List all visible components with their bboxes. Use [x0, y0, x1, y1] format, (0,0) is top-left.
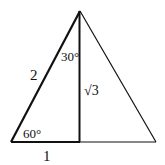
- hypotenuse-line: [11, 11, 80, 142]
- triangle-diagram: 2 30° 60° √3 1: [0, 0, 165, 165]
- right-side-line: [80, 11, 156, 142]
- half-base-label: 1: [43, 148, 51, 164]
- hypotenuse-label: 2: [30, 67, 38, 83]
- altitude-label: √3: [84, 83, 99, 98]
- top-angle-label: 30°: [61, 49, 79, 64]
- bottom-angle-label: 60°: [23, 126, 41, 141]
